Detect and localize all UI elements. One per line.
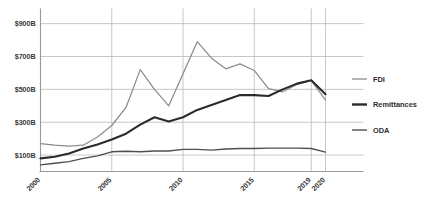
x-axis-tick-labels: 200020052010201520192020 [25, 175, 327, 192]
gridlines-horizontal [41, 24, 364, 155]
x-tick-label-5: 2020 [310, 175, 327, 192]
y-tick-label-0: $100B [15, 151, 36, 160]
chart-container: $100B$300B$500B$700B$900B200020052010201… [0, 0, 427, 205]
legend-item-oda[interactable]: ODA [352, 126, 390, 135]
legend-label-oda: ODA [373, 126, 390, 135]
legend-label-remittances: Remittances [373, 100, 417, 109]
y-axis-tick-labels: $100B$300B$500B$700B$900B [15, 19, 36, 159]
y-tick-label-4: $900B [15, 19, 36, 28]
legend-item-fdi[interactable]: FDI [352, 75, 385, 84]
y-tick-label-1: $300B [15, 118, 36, 127]
x-tick-label-2: 2010 [167, 175, 184, 192]
line-chart: $100B$300B$500B$700B$900B200020052010201… [0, 0, 427, 205]
legend-item-remittances[interactable]: Remittances [352, 100, 417, 109]
legend: FDIRemittancesODA [352, 75, 417, 135]
x-tick-label-4: 2019 [295, 175, 312, 192]
x-tick-label-0: 2000 [25, 175, 42, 192]
x-tick-label-3: 2015 [238, 175, 255, 192]
x-tick-label-1: 2005 [96, 175, 113, 192]
y-tick-label-2: $500B [15, 85, 36, 94]
legend-label-fdi: FDI [373, 75, 385, 84]
y-tick-label-3: $700B [15, 52, 36, 61]
